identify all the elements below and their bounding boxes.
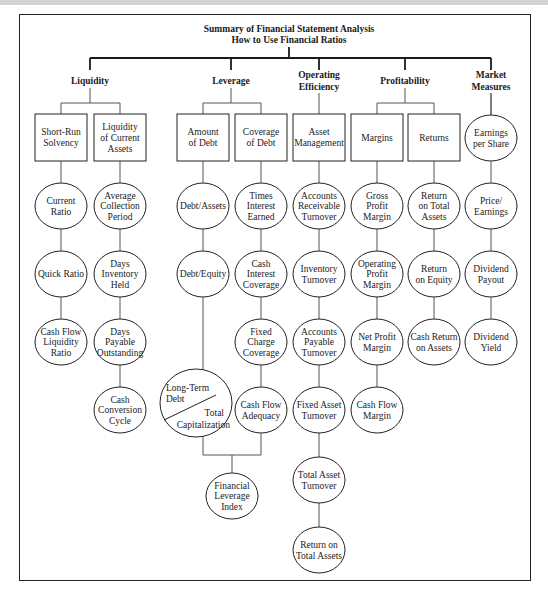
node-label-line: of Debt [189, 138, 218, 148]
node-label-line: Cash Flow [41, 327, 82, 337]
node-label-line: Earnings [474, 128, 508, 138]
node-label-line: Liquidity [43, 337, 79, 347]
ratio-fixed-charge-coverage: FixedChargeCoverage [235, 319, 287, 365]
ratio-accounts-receivable-turnover: AccountsReceivableTurnover [293, 183, 345, 229]
ratio-net-profit-margin: Net ProfitMargin [351, 319, 403, 365]
node-label-line: Quick Ratio [38, 269, 84, 279]
ratio-tree-diagram: Summary of Financial Statement Analysis … [0, 0, 548, 591]
node-label-line: Dividend [473, 332, 509, 342]
ratio-return-on-total-assets: Return onTotal Assets [293, 527, 345, 573]
ratio-inventory-turnover: InventoryTurnover [293, 251, 345, 297]
node-label-line: Turnover [301, 481, 337, 491]
ratio-current-ratio: CurrentRatio [35, 183, 87, 229]
box-returns: Returns [408, 114, 460, 161]
node-label-line: Interest [247, 269, 276, 279]
node-label-line: on Assets [416, 343, 452, 353]
ratio-price-earnings: Price/Earnings [465, 183, 517, 229]
node-label-line: Margin [363, 411, 391, 421]
node-label-line: Average [104, 191, 135, 201]
ratio-days-inventory-held: DaysInventoryHeld [94, 251, 146, 297]
node-label-line: Market [476, 70, 507, 80]
node-label-line: Margin [363, 343, 391, 353]
node-label-line: Amount [187, 127, 219, 137]
node-label-line: Interest [247, 201, 276, 211]
node-label-line: Leverage [212, 76, 249, 86]
node-label-line: Payout [478, 275, 505, 285]
node-label-line: Period [108, 212, 133, 222]
ratio-accounts-payable-turnover: AccountsPayableTurnover [293, 319, 345, 365]
node-label-line: Outstanding [97, 348, 144, 358]
node-label-line: of Debt [247, 138, 276, 148]
node-label-line: Held [111, 280, 130, 290]
node-label-line: Financial [214, 481, 250, 491]
node-label-line: Total Assets [296, 551, 342, 561]
ratio-debt-equity: Debt/Equity [177, 251, 229, 297]
node-label-line: Price/ [480, 196, 503, 206]
node-label-line: Profit [366, 269, 388, 279]
ratio-quick-ratio: Quick Ratio [35, 251, 87, 297]
node-label-line: on Total [418, 201, 449, 211]
node-label-line: Coverage [243, 348, 279, 358]
node-label-line: of Current [100, 133, 140, 143]
ratio-return-on-total-assets: Returnon TotalAssets [408, 183, 460, 229]
ratio-cash-flow-liquidity-ratio: Cash FlowLiquidityRatio [35, 319, 87, 365]
node-label-line: Assets [422, 212, 447, 222]
node-label-line: on Equity [415, 275, 452, 285]
node-label-line: Adequacy [242, 411, 281, 421]
numerator-line-1: Long-Term [166, 383, 210, 393]
ratio-financial-leverage-index: FinancialLeverageIndex [206, 473, 258, 519]
node-label-line: Inventory [102, 269, 139, 279]
node-label-line: Return on [300, 540, 338, 550]
ratio-total-asset-turnover: Total AssetTurnover [293, 457, 345, 503]
node-label-line: Liquidity [102, 122, 138, 132]
ratio-cash-flow-adequacy: Cash FlowAdequacy [235, 387, 287, 433]
node-label-line: Return [421, 264, 447, 274]
ratio-return-on-equity: Returnon Equity [408, 251, 460, 297]
node-label-line: Solvency [43, 138, 79, 148]
ratio-gross-profit-margin: GrossProfitMargin [351, 183, 403, 229]
node-label-line: Days [110, 327, 130, 337]
box-margins: Margins [351, 114, 403, 161]
ratio-debt-assets: Debt/Assets [177, 183, 229, 229]
node-label-line: Turnover [301, 275, 337, 285]
node-label-line: Dividend [473, 264, 509, 274]
node-label-line: Operating [358, 259, 396, 269]
node-label-line: Profit [366, 201, 388, 211]
node-label-line: Earnings [474, 207, 508, 217]
node-label-line: Cash Return [410, 332, 457, 342]
node-label-line: Payable [304, 337, 334, 347]
ratio-cash-return-on-assets: Cash Returnon Assets [408, 319, 460, 365]
diagram-title: Summary of Financial Statement Analysis … [204, 24, 375, 45]
node-label-line: Coverage [243, 127, 279, 137]
category-liquidity: Liquidity [71, 76, 109, 86]
node-label-line: Debt/Equity [180, 269, 227, 279]
node-label-line: Turnover [301, 411, 337, 421]
node-label-line: Margin [363, 280, 391, 290]
node-label-line: Management [294, 138, 344, 148]
node-label-line: Collection [100, 201, 140, 211]
node-label-line: Cash [111, 395, 130, 405]
node-label-line: Cash [252, 259, 271, 269]
node-label-line: Debt/Assets [180, 201, 226, 211]
node-label-line: Margin [363, 212, 391, 222]
node-label-line: Payable [105, 337, 135, 347]
node-label-line: Cash Flow [241, 400, 282, 410]
ratio-fixed-asset-turnover: Fixed AssetTurnover [293, 387, 345, 433]
node-label-line: Fixed Asset [297, 400, 342, 410]
node-label-line: Index [221, 502, 243, 512]
node-label-line: Cash Flow [357, 400, 398, 410]
node-label-line: per Share [473, 139, 509, 149]
title-line-1: Summary of Financial Statement Analysis [204, 24, 375, 34]
category-operating-efficiency: OperatingEfficiency [298, 70, 340, 92]
node-label-line: Charge [247, 337, 274, 347]
node-label-line: Turnover [301, 348, 337, 358]
ratio-times-interest-earned: TimesInterestEarned [235, 183, 287, 229]
node-label-line: Profitability [380, 76, 430, 86]
node-label-line: Accounts [301, 191, 337, 201]
node-label-line: Ratio [51, 348, 72, 358]
denominator-line-2: Capitalization [177, 420, 231, 430]
ratio-earnings-per-share: Earningsper Share [465, 115, 517, 161]
node-label-line: Assets [108, 144, 133, 154]
ratio-dividend-payout: DividendPayout [465, 251, 517, 297]
node-label-line: Total Asset [298, 470, 341, 480]
